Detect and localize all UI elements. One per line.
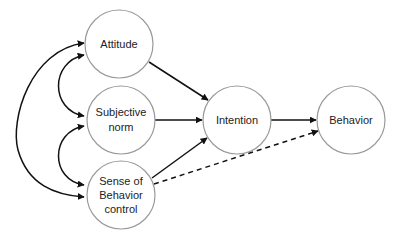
- node-subjective-norm-label-1: Subjective: [96, 106, 147, 118]
- node-sense-label-3: control: [104, 203, 137, 215]
- node-intention: Intention: [203, 86, 271, 154]
- node-subjective-norm-label-2: norm: [108, 121, 133, 133]
- node-attitude: Attitude: [85, 10, 153, 78]
- node-intention-label: Intention: [216, 114, 258, 126]
- node-behavior-label: Behavior: [329, 114, 373, 126]
- edge-attitude-sense-correlation: [16, 43, 84, 197]
- edge-attitude-subjective-correlation: [59, 55, 85, 116]
- node-subjective-norm: Subjective norm: [87, 86, 155, 154]
- node-sense-label-2: Behavior: [99, 189, 143, 201]
- node-attitude-label: Attitude: [100, 38, 137, 50]
- tpb-diagram: Attitude Subjective norm Sense of Behavi…: [0, 0, 400, 240]
- node-sense-of-behavior-control: Sense of Behavior control: [87, 161, 155, 229]
- edge-sense-to-intention: [152, 138, 207, 178]
- edge-subjective-sense-correlation: [59, 126, 85, 185]
- node-sense-label-1: Sense of: [99, 175, 143, 187]
- edge-attitude-to-intention: [149, 62, 208, 100]
- node-behavior: Behavior: [317, 86, 385, 154]
